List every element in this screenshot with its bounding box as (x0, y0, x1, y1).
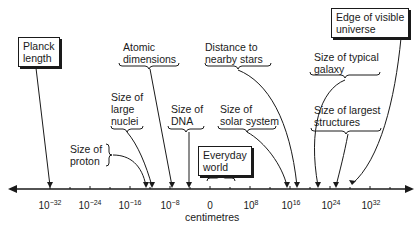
visible-universe-box: Edge of visible universe (331, 8, 409, 38)
tick-label: 10−32 (39, 198, 62, 211)
planck-length-box: Planck length (18, 37, 60, 67)
tick-label: 0 (207, 198, 213, 211)
tick-label: 1016 (282, 198, 301, 211)
axis-title: centimetres (185, 211, 239, 223)
dna-label: Size of DNA (171, 103, 203, 127)
atomic-dimensions-label: Atomic dimensions (123, 41, 176, 65)
length-scale-diagram: Planck length Size of proton Size of lar… (0, 0, 420, 231)
tick-label: 10−24 (79, 198, 102, 211)
tick-label: 1032 (362, 198, 381, 211)
proton-label: Size of proton (70, 143, 102, 167)
tick-label: 10−8 (160, 198, 179, 211)
large-nuclei-label: Size of large nuclei (111, 91, 143, 127)
tick-label: 1024 (322, 198, 341, 211)
largest-structures-label: Size of largest structures (314, 104, 381, 128)
everyday-world-box: Everyday world (198, 146, 252, 176)
typical-galaxy-label: Size of typical galaxy (314, 51, 379, 75)
nearby-stars-label: Distance to nearby stars (205, 41, 263, 65)
arrow-heads (8, 180, 414, 193)
tick-label: 108 (243, 198, 258, 211)
solar-system-label: Size of solar system (220, 103, 279, 127)
axis-left-arrow (8, 185, 17, 193)
axis-right-arrow (405, 185, 414, 193)
tick-label: 10−16 (119, 198, 142, 211)
